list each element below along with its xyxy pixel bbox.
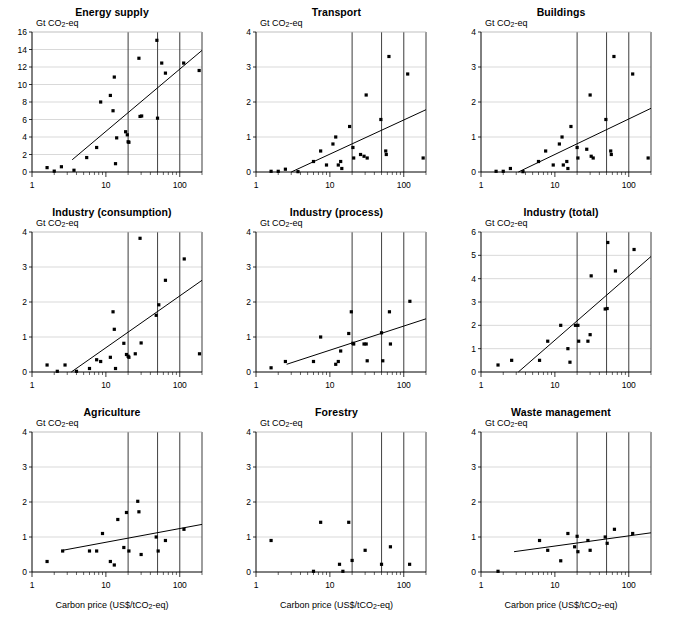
chart-panel: AgricultureGt CO2-eqCarbon price (US$/tC… xyxy=(0,400,224,621)
data-point xyxy=(496,363,499,366)
y-tick-label: 4 xyxy=(471,27,476,37)
data-point xyxy=(606,542,609,545)
y-tick-label: 3 xyxy=(22,462,27,472)
data-point xyxy=(155,535,158,538)
data-point xyxy=(325,163,328,166)
data-point xyxy=(138,237,141,240)
x-tick-label: 10 xyxy=(550,580,560,590)
plot-area: 01234110100 xyxy=(449,400,673,621)
plot-area: 01234110100 xyxy=(0,400,224,621)
y-tick-label: 4 xyxy=(246,27,251,37)
y-tick-label: 0 xyxy=(471,167,476,177)
y-tick-label: 1 xyxy=(246,532,251,542)
data-point xyxy=(592,156,595,159)
data-point xyxy=(319,521,322,524)
data-point xyxy=(137,57,140,60)
trend-line xyxy=(291,110,426,172)
x-tick-label: 100 xyxy=(397,580,411,590)
data-point xyxy=(45,363,48,366)
data-point xyxy=(631,532,634,535)
data-point xyxy=(340,167,343,170)
data-point xyxy=(45,166,48,169)
plot-area: 01234110100 xyxy=(0,200,224,400)
data-point xyxy=(546,549,549,552)
data-point xyxy=(334,363,337,366)
data-point xyxy=(182,528,185,531)
y-tick-label: 2 xyxy=(22,150,27,160)
chart-panel: Energy supplyGt CO2-eq024681012141611010… xyxy=(0,0,224,200)
plot-area: 01234110100 xyxy=(449,0,673,200)
x-tick-label: 100 xyxy=(173,180,187,190)
data-point xyxy=(277,170,280,173)
y-tick-label: 4 xyxy=(22,227,27,237)
data-point xyxy=(502,170,505,173)
data-point xyxy=(56,370,59,373)
data-point xyxy=(359,153,362,156)
data-point xyxy=(589,333,592,336)
data-point xyxy=(606,241,609,244)
plot-area: 0246810121416110100 xyxy=(0,0,224,200)
data-point xyxy=(380,563,383,566)
y-tick-label: 3 xyxy=(246,262,251,272)
plot-area: 01234110100 xyxy=(224,200,449,400)
data-point xyxy=(559,559,562,562)
y-tick-label: 16 xyxy=(18,27,28,37)
data-point xyxy=(284,360,287,363)
data-point xyxy=(609,149,612,152)
x-tick-label: 10 xyxy=(101,380,111,390)
data-point xyxy=(337,163,340,166)
x-tick-label: 10 xyxy=(550,180,560,190)
data-point xyxy=(339,160,342,163)
y-tick-label: 3 xyxy=(471,62,476,72)
data-point xyxy=(385,153,388,156)
data-point xyxy=(109,94,112,97)
data-point xyxy=(537,160,540,163)
data-point xyxy=(546,340,549,343)
data-point xyxy=(341,570,344,573)
data-point xyxy=(577,340,580,343)
data-point xyxy=(408,563,411,566)
data-point xyxy=(137,510,140,513)
y-tick-label: 0 xyxy=(246,567,251,577)
y-tick-label: 3 xyxy=(246,62,251,72)
data-point xyxy=(164,539,167,542)
y-tick-label: 1 xyxy=(246,132,251,142)
data-point xyxy=(576,550,579,553)
data-point xyxy=(604,118,607,121)
data-point xyxy=(569,125,572,128)
data-point xyxy=(269,539,272,542)
data-point xyxy=(269,170,272,173)
data-point xyxy=(140,553,143,556)
data-point xyxy=(566,347,569,350)
x-tick-label: 10 xyxy=(325,180,335,190)
data-point xyxy=(406,72,409,75)
data-point xyxy=(114,162,117,165)
y-tick-label: 2 xyxy=(471,97,476,107)
x-tick-label: 1 xyxy=(30,580,35,590)
data-point xyxy=(109,560,112,563)
data-point xyxy=(614,269,617,272)
data-point xyxy=(160,61,163,64)
data-point xyxy=(521,170,524,173)
plot-area: 01234110100 xyxy=(224,0,449,200)
data-point xyxy=(95,146,98,149)
data-point xyxy=(53,170,56,173)
chart-panel: Industry (total)Gt CO2-eq0123456110100 xyxy=(449,200,673,400)
data-point xyxy=(589,93,592,96)
data-point xyxy=(115,136,118,139)
data-point xyxy=(352,156,355,159)
data-point xyxy=(352,342,355,345)
data-point xyxy=(559,324,562,327)
y-tick-label: 4 xyxy=(471,274,476,284)
data-point xyxy=(124,130,127,133)
data-point xyxy=(347,521,350,524)
x-tick-label: 100 xyxy=(173,580,187,590)
data-point xyxy=(632,248,635,251)
x-tick-label: 100 xyxy=(173,380,187,390)
data-point xyxy=(164,279,167,282)
data-point xyxy=(116,518,119,521)
trend-line xyxy=(518,257,651,373)
data-point xyxy=(127,141,130,144)
data-point xyxy=(381,359,384,362)
data-point xyxy=(63,363,66,366)
